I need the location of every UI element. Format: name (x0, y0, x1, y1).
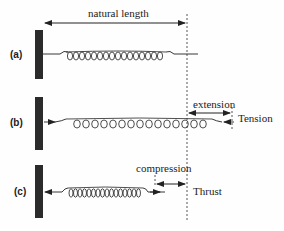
panel-c: (c) compression Thrust (14, 162, 222, 218)
natural-length-label: natural length (88, 7, 149, 19)
compression-label: compression (136, 162, 192, 174)
tension-label: Tension (238, 112, 273, 124)
spring-coils-c (68, 187, 143, 197)
spring-coils-b (66, 118, 212, 128)
spring-coils-a (66, 51, 166, 60)
panel-label-b: (b) (10, 117, 23, 128)
spring-diagram: natural length (a) (b) (0, 0, 284, 231)
wall-icon (35, 97, 43, 150)
wall-icon (35, 165, 43, 218)
panel-b: (b) extension Tension (10, 97, 273, 150)
panel-a: (a) (10, 30, 198, 79)
thrust-label: Thrust (193, 185, 222, 197)
extension-label: extension (193, 98, 236, 110)
wall-icon (35, 30, 43, 79)
panel-label-c: (c) (14, 186, 26, 197)
panel-label-a: (a) (10, 49, 22, 60)
